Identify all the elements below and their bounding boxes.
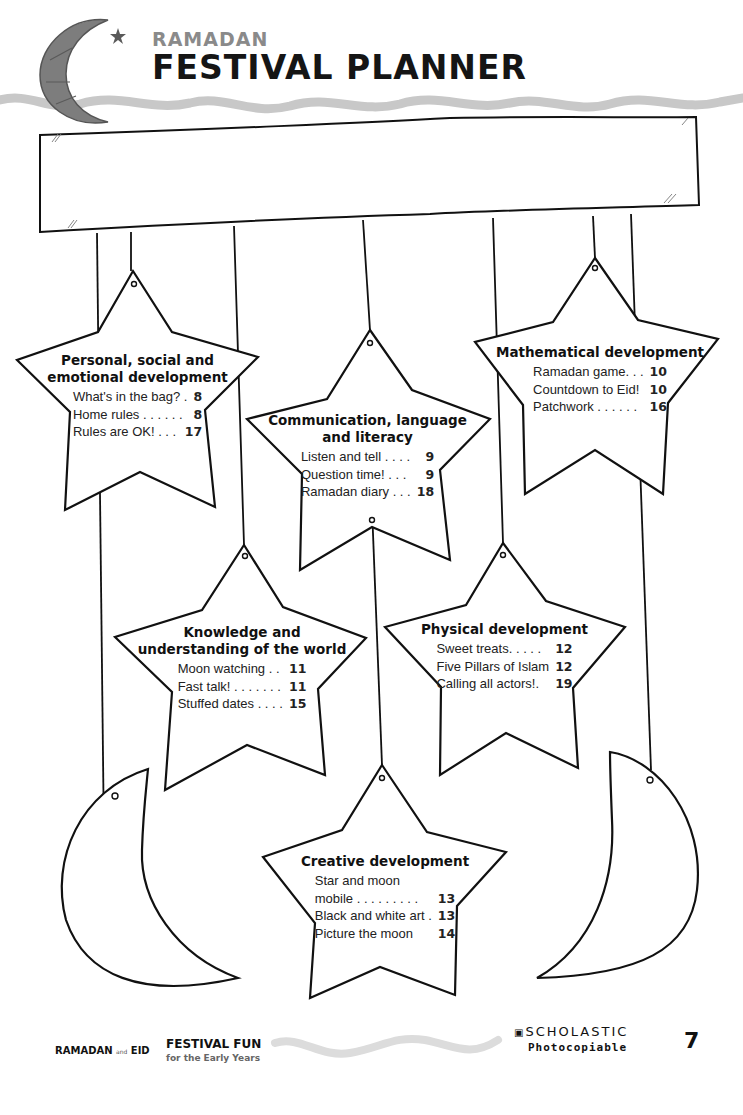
star-heading: Knowledge and — [118, 624, 366, 641]
star-heading: understanding of the world — [118, 641, 366, 658]
series-label: RAMADAN and EID — [55, 1045, 150, 1056]
star-heading: Communication, language — [245, 412, 490, 429]
activity-entry: mobile . . . . . . . . .13 — [315, 890, 455, 908]
moon-left — [62, 769, 238, 986]
star-text-mathematical: Mathematical development Ramadan game. .… — [485, 344, 715, 416]
star-text-communication: Communication, language and literacy Lis… — [245, 412, 490, 501]
activity-entry: Ramadan game. . .10 — [533, 363, 667, 381]
activity-entry: Listen and tell . . . .9 — [301, 448, 434, 466]
activity-entry: What's in the bag? .8 — [73, 388, 202, 406]
book-icon: ▣ — [514, 1027, 525, 1038]
star-heading: Personal, social and — [20, 352, 255, 369]
activity-entry: Stuffed dates . . . .15 — [178, 695, 307, 713]
star-heading: Creative development — [275, 853, 495, 870]
star-heading: Physical development — [392, 621, 617, 638]
activity-entry: Fast talk! . . . . . . .11 — [178, 678, 307, 696]
brand-sublabel: for the Early Years — [166, 1053, 260, 1063]
star-text-physical: Physical development Sweet treats. . . .… — [392, 621, 617, 693]
star-heading: and literacy — [245, 429, 490, 446]
page-title: FESTIVAL PLANNER — [152, 48, 527, 87]
header-wave-decoration — [0, 98, 743, 109]
banner-board — [40, 117, 699, 232]
activity-entry: Patchwork . . . . . .16 — [533, 398, 667, 416]
photocopiable-label: Photocopiable — [528, 1041, 627, 1054]
star-heading: emotional development — [20, 369, 255, 386]
mobile-illustration — [0, 0, 743, 1115]
star-heading: Mathematical development — [485, 344, 715, 361]
activity-entry: Calling all actors!.19 — [436, 675, 572, 693]
activity-entry: Rules are OK! . . .17 — [73, 423, 202, 441]
moon-right — [537, 752, 698, 978]
activity-entry: Home rules . . . . . .8 — [73, 406, 202, 424]
header-subtitle: RAMADAN — [152, 28, 268, 50]
star-text-personal-social: Personal, social and emotional developme… — [20, 352, 255, 441]
activity-entry: Star and moon — [315, 872, 455, 890]
activity-entry: Ramadan diary . . .18 — [301, 483, 434, 501]
activity-entry: Sweet treats. . . . .12 — [436, 640, 572, 658]
activity-entry: Five Pillars of Islam12 — [436, 658, 572, 676]
page-number: 7 — [684, 1028, 699, 1053]
activity-entry: Picture the moon14 — [315, 925, 455, 943]
activity-entry: Black and white art .13 — [315, 907, 455, 925]
star-text-knowledge: Knowledge and understanding of the world… — [118, 624, 366, 713]
activity-entry: Countdown to Eid!10 — [533, 381, 667, 399]
star-text-creative: Creative development Star and moon mobil… — [275, 853, 495, 942]
brand-label: FESTIVAL FUN — [166, 1037, 261, 1051]
footer-wave-decoration — [275, 1039, 498, 1054]
publisher-label: ▣SCHOLASTIC — [514, 1024, 628, 1039]
activity-entry: Moon watching . .11 — [178, 660, 307, 678]
activity-entry: Question time! . . .9 — [301, 466, 434, 484]
